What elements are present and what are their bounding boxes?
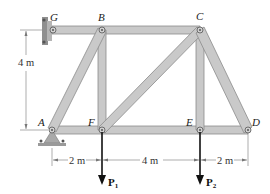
dimension-height-label: 4 m (18, 57, 34, 68)
truss-members (48, 26, 252, 134)
label-d: D (251, 116, 260, 128)
load-p2-label: P2 (206, 176, 217, 190)
member-ad (52, 126, 248, 134)
dimension-af-label: 2 m (69, 155, 85, 166)
label-b: B (98, 11, 105, 23)
label-f: F (87, 116, 95, 128)
member-ab (48, 28, 106, 132)
member-gc (52, 26, 200, 34)
load-p2 (196, 132, 204, 185)
label-a: A (37, 116, 45, 128)
truss-diagram: G B C A F E D 4 m 2 m 4 m 2 m P1 (0, 0, 270, 194)
dimension-fe-label: 4 m (142, 155, 158, 166)
label-e: E (185, 116, 193, 128)
load-p1-label: P1 (108, 176, 119, 190)
label-g: G (50, 11, 58, 23)
dimension-ed-label: 2 m (217, 155, 233, 166)
label-c: C (196, 10, 204, 22)
load-p1 (98, 132, 106, 185)
